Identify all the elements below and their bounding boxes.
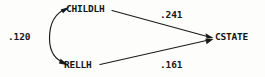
node-label-rellh: RELLH [64,59,92,70]
arrowhead-childlh-cstate [206,33,214,38]
path-rellh-to-cstate [100,39,214,65]
path-arc-childlh-rellh [50,9,67,64]
coefficient-label-rellh-cstate: .161 [160,59,182,70]
path-childlh-to-rellh-correlation [50,7,70,66]
node-label-childlh: CHILDLH [66,3,105,14]
node-label-cstate: CSTATE [215,31,248,42]
path-line-rellh-cstate [100,40,211,65]
path-diagram: CHILDLH RELLH CSTATE .241 .161 .120 [0,0,265,77]
arrowhead-rellh-cstate [205,39,213,45]
coefficient-label-childlh-rellh: .120 [8,31,30,42]
coefficient-label-childlh-cstate: .241 [160,9,182,20]
